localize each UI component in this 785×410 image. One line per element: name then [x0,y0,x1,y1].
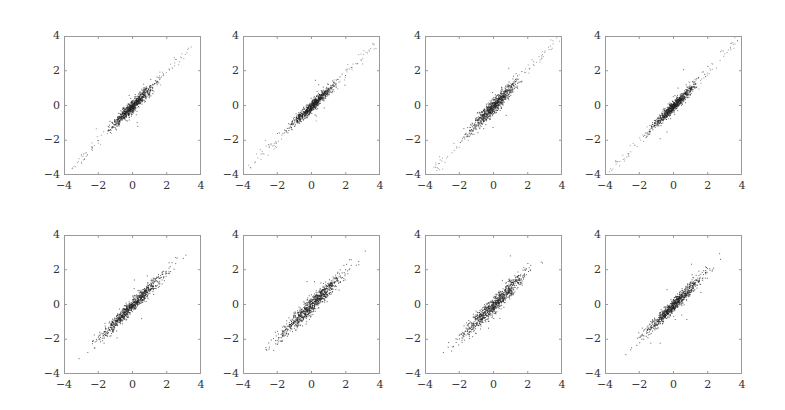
scatter-panel-8: 420−2−4−4−2024 [605,235,742,374]
y-tick-label: −2 [575,134,601,145]
x-tick-label: 2 [155,379,179,390]
y-tick-label: 0 [34,100,60,111]
scatter-panel-3: 420−2−4−4−2024 [425,36,562,175]
y-tick-label: 4 [213,229,239,240]
y-tick-label: 0 [395,299,421,310]
x-tick-label: −2 [627,379,651,390]
x-tick-label: −4 [231,180,255,191]
x-tick-label: 0 [662,180,686,191]
scatter-points [64,36,201,175]
y-tick-label: 2 [395,264,421,275]
x-tick-label: 4 [368,180,392,191]
y-tick-label: 4 [34,229,60,240]
x-tick-label: −2 [627,180,651,191]
x-tick-label: 4 [368,379,392,390]
scatter-panel-4: 420−2−4−4−2024 [605,36,742,175]
x-tick-label: 2 [334,379,358,390]
x-tick-label: 2 [516,379,540,390]
x-tick-label: −2 [86,379,110,390]
x-tick-label: −4 [52,379,76,390]
scatter-points [243,235,380,374]
x-tick-label: −2 [447,379,471,390]
x-tick-label: 0 [300,180,324,191]
x-tick-label: 4 [189,379,213,390]
x-tick-label: 2 [155,180,179,191]
y-tick-label: −2 [213,333,239,344]
x-tick-label: 4 [550,379,574,390]
y-tick-label: 2 [575,264,601,275]
y-tick-label: 0 [213,100,239,111]
y-tick-label: 4 [575,229,601,240]
x-tick-label: 2 [334,180,358,191]
x-tick-label: −2 [447,180,471,191]
scatter-panel-1: 420−2−4−4−2024 [64,36,201,175]
y-tick-label: −2 [395,333,421,344]
y-tick-label: 2 [395,65,421,76]
y-tick-label: 0 [34,299,60,310]
y-tick-label: 4 [395,229,421,240]
x-tick-label: 4 [550,180,574,191]
x-tick-label: 4 [730,180,754,191]
scatter-panel-7: 420−2−4−4−2024 [425,235,562,374]
y-tick-label: 4 [34,30,60,41]
x-tick-label: 0 [482,180,506,191]
y-tick-label: 4 [213,30,239,41]
x-tick-label: −2 [265,379,289,390]
y-tick-label: 2 [575,65,601,76]
x-tick-label: 0 [300,379,324,390]
y-tick-label: 4 [395,30,421,41]
x-tick-label: 0 [482,379,506,390]
scatter-points [605,235,742,374]
scatter-panel-6: 420−2−4−4−2024 [243,235,380,374]
y-tick-label: 2 [34,264,60,275]
y-tick-label: 0 [575,100,601,111]
x-tick-label: 0 [121,379,145,390]
y-tick-label: 0 [395,100,421,111]
scatter-points [425,36,562,175]
scatter-points [243,36,380,175]
y-tick-label: 4 [575,30,601,41]
y-tick-label: −2 [575,333,601,344]
y-tick-label: 0 [575,299,601,310]
x-tick-label: 0 [662,379,686,390]
x-tick-label: −4 [413,379,437,390]
x-tick-label: 4 [189,180,213,191]
y-tick-label: 2 [213,65,239,76]
x-tick-label: −2 [265,180,289,191]
y-tick-label: 2 [34,65,60,76]
y-tick-label: −2 [213,134,239,145]
x-tick-label: 2 [516,180,540,191]
scatter-panel-2: 420−2−4−4−2024 [243,36,380,175]
y-tick-label: 2 [213,264,239,275]
scatter-points [605,36,742,175]
x-tick-label: 2 [696,379,720,390]
scatter-points [64,235,201,374]
y-tick-label: −2 [395,134,421,145]
x-tick-label: −4 [593,379,617,390]
x-tick-label: −4 [52,180,76,191]
x-tick-label: −4 [231,379,255,390]
x-tick-label: −2 [86,180,110,191]
scatter-points [425,235,562,374]
x-tick-label: 0 [121,180,145,191]
x-tick-label: −4 [593,180,617,191]
y-tick-label: 0 [213,299,239,310]
x-tick-label: 2 [696,180,720,191]
scatter-panel-5: 420−2−4−4−2024 [64,235,201,374]
y-tick-label: −2 [34,134,60,145]
x-tick-label: −4 [413,180,437,191]
x-tick-label: 4 [730,379,754,390]
y-tick-label: −2 [34,333,60,344]
